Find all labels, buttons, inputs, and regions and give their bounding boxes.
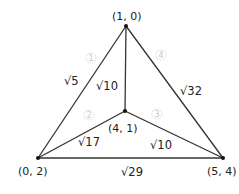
- edge-top-center: [125, 26, 126, 111]
- svg-text:2: 2: [87, 111, 92, 120]
- vertex-label-center: (4, 1): [108, 122, 138, 135]
- marker-1: 1: [86, 53, 96, 63]
- vertex-label-bottom-left: (0, 2): [18, 165, 48, 178]
- edge-label-bottom: √29: [121, 165, 143, 179]
- svg-text:3: 3: [155, 110, 160, 119]
- vertex-bottom-right: [221, 156, 225, 160]
- edge-center-bottom-right: [125, 111, 223, 158]
- svg-text:4: 4: [159, 51, 164, 60]
- edge-label-center-bottom-right: √10: [150, 138, 172, 152]
- edge-label-top-bottom-right: √32: [180, 84, 202, 98]
- vertex-center: [123, 109, 127, 113]
- edge-top-bottom-right: [126, 26, 223, 158]
- edge-label-center-bottom-left: √17: [78, 135, 100, 149]
- vertex-label-bottom-right: (5, 4): [207, 165, 237, 178]
- vertex-label-top: (1, 0): [112, 10, 142, 23]
- graph-diagram: (1, 0) (4, 1) (0, 2) (5, 4) √5 √10 √32 √…: [0, 0, 239, 194]
- edge-label-top-center: √10: [96, 79, 118, 93]
- marker-4: 4: [156, 50, 166, 60]
- svg-text:1: 1: [89, 54, 94, 63]
- marker-2: 2: [84, 110, 94, 120]
- marker-3: 3: [152, 109, 162, 119]
- edge-label-top-bottom-left: √5: [64, 74, 79, 88]
- vertex-top: [124, 24, 128, 28]
- vertex-bottom-left: [36, 156, 40, 160]
